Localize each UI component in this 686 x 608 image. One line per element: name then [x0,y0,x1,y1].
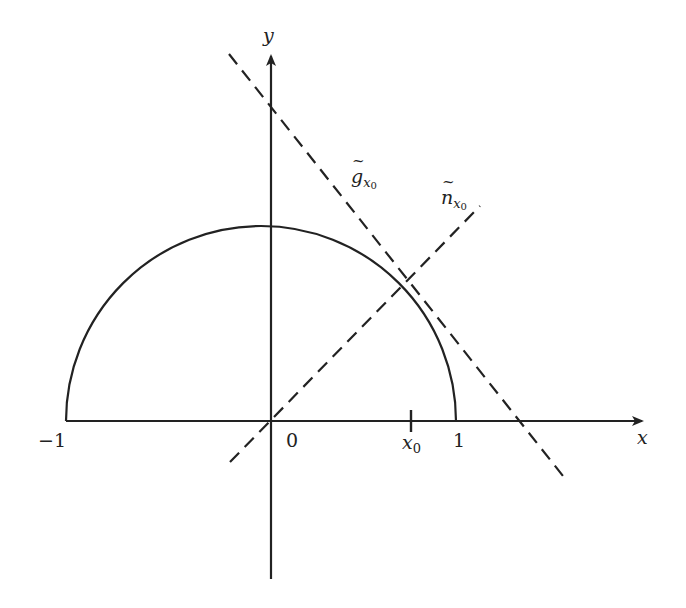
x-axis-label: x [637,428,648,447]
tangent-label-main: g [351,165,363,187]
x0-label-sub: 0 [413,441,421,456]
tangent-line-label: gx0 [351,167,377,186]
normal-label-main: n [441,186,453,208]
normal-label-sub: x0 [453,196,467,211]
one-label: 1 [453,431,465,450]
normal-line [230,206,480,462]
semicircle-curve [66,226,456,421]
tangent-label-sub: x0 [363,175,377,190]
neg-one-label: −1 [38,431,66,450]
x0-label: x0 [402,433,421,452]
x0-label-main: x [402,431,413,453]
y-axis-label: y [263,26,274,45]
diagram: y x −1 0 1 x0 gx0 nx0 [0,0,686,608]
origin-label: 0 [286,431,298,450]
normal-line-label: nx0 [441,188,467,207]
